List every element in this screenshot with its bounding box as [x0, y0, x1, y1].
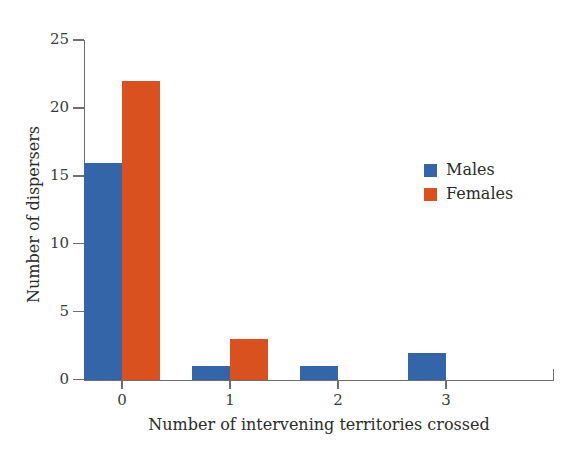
y-axis-tick: [73, 39, 84, 40]
x-axis-right-cap: [553, 369, 554, 381]
x-axis-tick-label: 2: [318, 393, 358, 408]
legend-label: Males: [446, 162, 495, 178]
y-axis-tick: [73, 311, 84, 312]
legend-item-females[interactable]: Females: [424, 182, 513, 206]
x-axis-tick: [337, 380, 338, 389]
x-axis-tick: [445, 380, 446, 389]
bar-chart: 0510152025 0123 Number of dispersers Num…: [0, 0, 581, 450]
bar-males-3: [408, 353, 446, 380]
y-axis-tick: [73, 107, 84, 108]
y-axis-tick-label: 0: [25, 372, 69, 387]
x-axis-tick: [229, 380, 230, 389]
legend-swatch-males-icon: [424, 164, 437, 177]
bar-females-1: [230, 339, 268, 380]
x-axis-tick-label: 3: [426, 393, 466, 408]
x-axis-tick: [121, 380, 122, 389]
bar-males-1: [192, 366, 230, 380]
chart-legend: MalesFemales: [424, 158, 513, 206]
y-axis-tick-label: 20: [25, 100, 69, 115]
bar-males-2: [300, 366, 338, 380]
y-axis-tick: [73, 175, 84, 176]
y-axis-tick: [73, 243, 84, 244]
x-axis-tick-label: 1: [210, 393, 250, 408]
bar-males-0: [84, 163, 122, 380]
x-axis-title: Number of intervening territories crosse…: [84, 415, 554, 434]
x-axis-tick-label: 0: [102, 393, 142, 408]
y-axis-tick-label: 25: [25, 32, 69, 47]
legend-label: Females: [446, 186, 513, 202]
legend-item-males[interactable]: Males: [424, 158, 513, 182]
y-axis-title: Number of dispersers: [24, 115, 43, 315]
legend-swatch-females-icon: [424, 188, 437, 201]
y-axis-tick: [73, 379, 84, 380]
bar-females-0: [122, 81, 160, 380]
